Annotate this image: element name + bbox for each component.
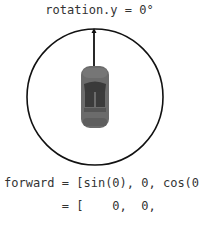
forward-formula: forward = [sin(0), 0, cos(0)] bbox=[4, 176, 199, 190]
forward-arrow-icon bbox=[92, 28, 97, 66]
forward-value: = [ 0, 0, 1] bbox=[4, 199, 199, 213]
rotation-diagram bbox=[0, 0, 199, 227]
car-top-view-icon bbox=[81, 66, 109, 128]
